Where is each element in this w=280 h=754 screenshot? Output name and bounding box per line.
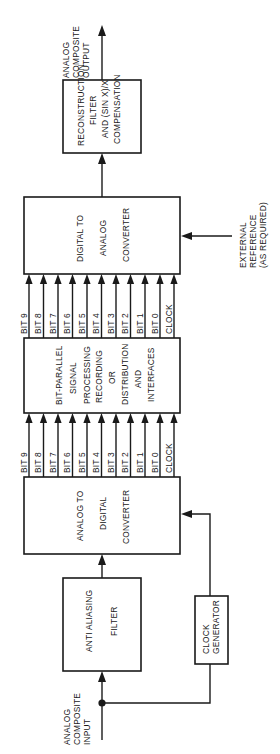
input-label: ANALOG COMPOSITE INPUT (62, 693, 92, 745)
proc-line-2: SIGNAL (68, 362, 78, 394)
recon-line-3: AND (SIN X)/X (100, 80, 110, 138)
proc-line-1: BIT-PARALLEL (54, 345, 64, 405)
bus-label: BIT 6 (62, 452, 72, 473)
bus-arrow-icon (25, 274, 32, 284)
bus-label: BIT 7 (48, 452, 58, 473)
dac-block: DIGITAL TO ANALOG CONVERTER (24, 197, 180, 274)
output-label: ANALOG COMPOSITE OUTPUT (61, 26, 91, 78)
adc-line-3: CONVERTER (121, 490, 131, 544)
bus-arrow-icon (156, 274, 163, 284)
processing-block: BIT-PARALLEL SIGNAL PROCESSING RECORDING… (24, 338, 180, 413)
aa-filter-line-1: ANTI ALIASING (84, 590, 94, 652)
bus-label: BIT 6 (62, 313, 72, 334)
bus-label: BIT 1 (135, 313, 145, 334)
output-arrow-icon (98, 25, 106, 36)
bus-arrow-icon (141, 413, 148, 423)
signal-chain-diagram: ANALOG COMPOSITE INPUT ANTI ALIASING FIL… (0, 0, 280, 754)
bus-label: BIT 9 (19, 452, 29, 473)
recon-line-2: FILTER (88, 96, 98, 125)
bus-arrow-icon (98, 274, 105, 284)
dac-line-2: ANALOG (98, 220, 108, 256)
adc-line-1: ANALOG TO (75, 490, 85, 541)
bus-arrow-icon (40, 413, 47, 423)
bus-label: BIT 9 (19, 313, 29, 334)
bus-label: BIT 3 (106, 452, 116, 473)
bus-arrow-icon (69, 274, 76, 284)
anti-aliasing-filter-block: ANTI ALIASING FILTER (63, 578, 141, 671)
ext-ref-line-3: (AS REQUIRED) (258, 202, 268, 268)
bus-processing-to-dac: BIT 9BIT 8BIT 7BIT 6BIT 5BIT 4BIT 3BIT 2… (19, 274, 178, 338)
input-arrow-icon (98, 671, 106, 682)
bus-arrow-icon (127, 413, 134, 423)
proc-line-6: DISTRIBUTION (120, 344, 130, 406)
bus-label: BIT 2 (120, 452, 130, 473)
output-label-line-1: ANALOG (61, 42, 71, 78)
bus-arrow-icon (170, 413, 177, 423)
bus-arrow-icon (83, 413, 90, 423)
ext-ref-line-2: REFERENCE (248, 214, 258, 268)
bus-label: BIT 5 (77, 313, 87, 334)
output-label-line-2: COMPOSITE (71, 26, 81, 78)
bus-arrow-icon (54, 413, 61, 423)
bus-label: BIT 5 (77, 452, 87, 473)
dac-to-recon-arrow-icon (98, 153, 106, 164)
bus-label: BIT 4 (91, 313, 101, 334)
clock-to-adc-arrow-icon (181, 510, 192, 518)
proc-line-4: RECORDING (94, 350, 104, 403)
bus-label: BIT 2 (120, 313, 130, 334)
bus-arrow-icon (25, 413, 32, 423)
bus-arrow-icon (156, 413, 163, 423)
analog-input-path: ANALOG COMPOSITE INPUT (62, 664, 210, 745)
bus-arrow-icon (98, 413, 105, 423)
clock-generator-block: CLOCK GENERATOR (195, 596, 228, 664)
bus-arrow-icon (54, 274, 61, 284)
bus-label: BIT 0 (150, 452, 160, 473)
clock-gen-line-2: GENERATOR (211, 600, 221, 654)
proc-line-7: AND (133, 370, 143, 388)
bus-arrow-icon (112, 274, 119, 284)
bus-arrow-icon (69, 413, 76, 423)
external-reference-label: EXTERNAL REFERENCE (AS REQUIRED) (238, 202, 268, 268)
ext-ref-line-1: EXTERNAL (238, 222, 248, 268)
bus-label: BIT 8 (33, 452, 43, 473)
bus-label: BIT 3 (106, 313, 116, 334)
bus-label: BIT 4 (91, 452, 101, 473)
proc-line-8: INTERFACES (146, 347, 156, 402)
ext-ref-arrow-icon (181, 232, 192, 240)
bus-arrow-icon (83, 274, 90, 284)
clock-gen-line-1: CLOCK (201, 624, 211, 654)
aa-to-adc-arrow-icon (98, 554, 106, 565)
bus-arrow-icon (112, 413, 119, 423)
bus-label: CLOCK (164, 443, 174, 473)
adc-block: ANALOG TO DIGITAL CONVERTER (24, 477, 180, 554)
input-label-line-2: COMPOSITE (72, 693, 82, 745)
bus-label: CLOCK (164, 304, 174, 334)
bus-label: BIT 8 (33, 313, 43, 334)
bus-arrow-icon (141, 274, 148, 284)
dac-line-3: CONVERTER (121, 208, 131, 262)
aa-filter-line-2: FILTER (109, 607, 119, 636)
input-label-line-3: INPUT (82, 719, 92, 745)
input-label-line-1: ANALOG (62, 709, 72, 745)
bus-arrow-icon (170, 274, 177, 284)
adc-line-2: DIGITAL (98, 497, 108, 530)
proc-line-3: PROCESSING (82, 346, 92, 404)
clock-to-adc-wire (190, 514, 210, 596)
recon-line-4: COMPENSATION (112, 74, 122, 144)
bus-arrow-icon (127, 274, 134, 284)
bus-label: BIT 1 (135, 452, 145, 473)
dac-line-1: DIGITAL TO (75, 214, 85, 262)
bus-arrow-icon (40, 274, 47, 284)
bus-label: BIT 0 (150, 313, 160, 334)
output-label-line-3: OUTPUT (81, 42, 91, 78)
bus-label: BIT 7 (48, 313, 58, 334)
proc-line-5: OR (107, 371, 117, 384)
bus-adc-to-processing: BIT 9BIT 8BIT 7BIT 6BIT 5BIT 4BIT 3BIT 2… (19, 413, 178, 477)
